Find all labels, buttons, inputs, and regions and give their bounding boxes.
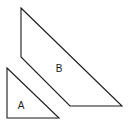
shape-b-label: B (56, 63, 63, 74)
shape-b-quadrilateral (21, 8, 122, 106)
diagram-canvas: B A (0, 0, 132, 126)
shape-a-label: A (18, 100, 25, 111)
shape-a-triangle (7, 68, 59, 118)
